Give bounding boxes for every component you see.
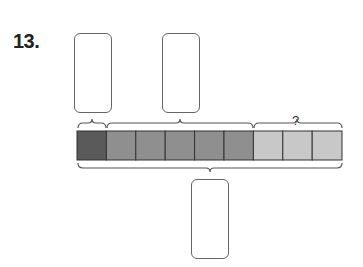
tape-bar (77, 131, 342, 160)
tape-diagram (0, 0, 363, 267)
bar-cell (165, 131, 194, 160)
bar-cell (77, 131, 106, 160)
brace-second-part (107, 119, 253, 128)
bar-cell (106, 131, 135, 160)
bar-cell (312, 131, 342, 160)
brace-first-part (78, 119, 106, 128)
bar-cell (224, 131, 253, 160)
brace-whole (78, 163, 342, 172)
bar-cell (253, 131, 282, 160)
bar-cell (195, 131, 224, 160)
brace-unknown-part (254, 119, 342, 128)
bar-cell (136, 131, 165, 160)
bar-cell (283, 131, 312, 160)
